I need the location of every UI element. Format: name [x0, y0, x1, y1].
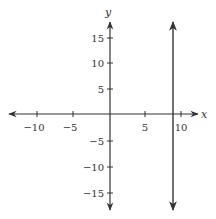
x-axis-label: x	[201, 108, 208, 121]
y-tick-labels: 15 10 5 −5 −10 −15	[83, 33, 104, 199]
y-tick-label: 15	[91, 33, 104, 44]
y-tick-label: 10	[91, 58, 104, 69]
coordinate-plane: x y −10 −5 5 10 15 10 5	[0, 0, 216, 219]
y-tick-label: 5	[98, 84, 104, 95]
y-tick-label: −10	[83, 162, 104, 173]
x-tick-label: −5	[63, 122, 78, 133]
x-tick-labels: −10 −5 5 10	[23, 122, 187, 133]
y-tick-label: −5	[89, 136, 104, 147]
y-axis-label: y	[104, 6, 112, 19]
x-tick-label: 5	[142, 122, 148, 133]
x-tick-label: −10	[23, 122, 44, 133]
y-tick-label: −15	[83, 188, 104, 199]
x-tick-label: 10	[175, 122, 188, 133]
